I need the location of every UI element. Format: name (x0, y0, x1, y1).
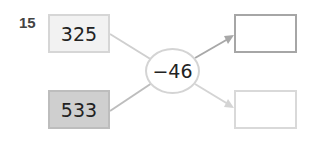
input-box-1: 325 (48, 14, 110, 53)
answer-box-2[interactable] (234, 90, 297, 129)
question-number: 15 (19, 14, 36, 31)
answer-box-1[interactable] (234, 14, 297, 53)
input-box-2: 533 (48, 90, 110, 129)
operation-bubble: −46 (145, 48, 200, 94)
